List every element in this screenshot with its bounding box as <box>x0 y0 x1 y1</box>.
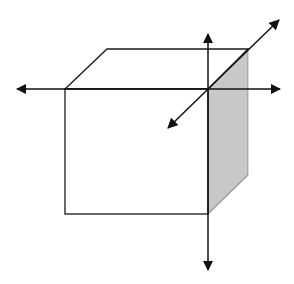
cube-front-face <box>65 89 208 214</box>
cube-axes-diagram <box>0 0 294 284</box>
